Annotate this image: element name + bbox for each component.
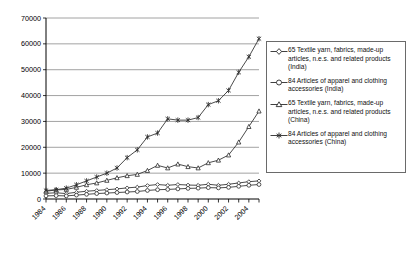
- y-axis-tick-label: 70000: [21, 14, 41, 23]
- legend-label: 84 Articles of apparel and clothing acce…: [288, 77, 402, 94]
- series-3: [44, 36, 261, 193]
- legend-label: 65 Textile yarn, fabrics, made-up articl…: [288, 99, 402, 125]
- legend-item-84-india[interactable]: 84 Articles of apparel and clothing acce…: [270, 77, 402, 94]
- y-axis-tick-label: 50000: [21, 65, 41, 74]
- circle-marker-icon: [270, 78, 288, 87]
- triangle-marker-icon: [270, 100, 288, 109]
- y-axis-tick-label: 30000: [21, 117, 41, 126]
- x-axis-tick-label: 1996: [151, 204, 169, 222]
- x-axis-tick-label: 2004: [233, 204, 251, 222]
- legend-label: 84 Articles of apparel and clothing acce…: [288, 130, 402, 147]
- y-axis-tick-label: 0: [37, 195, 41, 204]
- x-axis-labels-group: 1984198619881990199219941996199820002002…: [30, 204, 251, 222]
- x-axis-tick-label: 2002: [212, 204, 230, 222]
- x-axis-ticks-group: [46, 199, 259, 203]
- y-axis-tick-label: 40000: [21, 91, 41, 100]
- legend-label: 65 Textile yarn, fabrics, made-up articl…: [288, 46, 402, 72]
- y-axis-labels-group: 010000200003000040000500006000070000: [21, 14, 41, 204]
- chart-legend: 65 Textile yarn, fabrics, made-up articl…: [266, 41, 406, 173]
- y-axis-tick-label: 10000: [21, 169, 41, 178]
- chart-container: 010000200003000040000500006000070000 198…: [0, 0, 409, 253]
- star-marker-icon: [270, 131, 288, 140]
- y-axis-tick-label: 20000: [21, 143, 41, 152]
- legend-item-84-china[interactable]: 84 Articles of apparel and clothing acce…: [270, 130, 402, 147]
- diamond-marker-icon: [270, 47, 288, 56]
- legend-item-65-china[interactable]: 65 Textile yarn, fabrics, made-up articl…: [270, 99, 402, 125]
- x-axis-tick-label: 1984: [30, 204, 48, 222]
- legend-item-65-india[interactable]: 65 Textile yarn, fabrics, made-up articl…: [270, 46, 402, 72]
- x-axis-tick-label: 1998: [172, 204, 190, 222]
- x-axis-tick-label: 1988: [70, 204, 88, 222]
- x-axis-tick-label: 1990: [91, 204, 109, 222]
- x-axis-tick-label: 1992: [111, 204, 129, 222]
- gridlines-group: [46, 18, 259, 173]
- y-axis-tick-label: 60000: [21, 39, 41, 48]
- x-axis-tick-label: 1986: [50, 204, 68, 222]
- x-axis-tick-label: 1994: [131, 204, 149, 222]
- x-axis-tick-label: 2000: [192, 204, 210, 222]
